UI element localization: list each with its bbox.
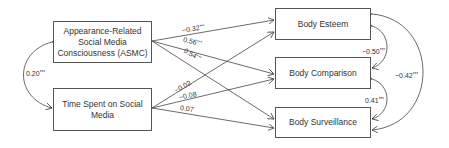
node-asmc: Appearance-Related Social Media Consciou… xyxy=(53,21,152,63)
coef-time-surveillance: 0.07 xyxy=(180,104,195,114)
node-label: Time Spent on Social Media xyxy=(54,99,151,121)
node-body-comparison: Body Comparison xyxy=(275,57,371,89)
cov-asmc-time: 0.20*** xyxy=(26,70,45,78)
node-body-surveillance: Body Surveillance xyxy=(275,107,371,138)
cov-comparison-surveillance: 0.41*** xyxy=(365,97,384,105)
node-label: Appearance-Related Social Media Consciou… xyxy=(54,26,151,59)
node-label: Body Esteem xyxy=(298,19,349,30)
cov-esteem-surveillance: −0.42*** xyxy=(395,72,418,80)
covariance-esteem-comparison xyxy=(372,26,387,68)
node-time-spent: Time Spent on Social Media xyxy=(53,88,152,131)
node-label: Body Comparison xyxy=(289,68,357,79)
path-time-comparison xyxy=(152,79,274,108)
path-diagram: Appearance-Related Social Media Consciou… xyxy=(0,0,449,148)
path-time-surveillance xyxy=(152,108,274,128)
path-asmc-surveillance xyxy=(152,41,274,119)
node-body-esteem: Body Esteem xyxy=(275,8,371,40)
path-time-esteem xyxy=(152,32,274,108)
path-asmc-comparison xyxy=(152,41,274,74)
cov-esteem-comparison: −0.50*** xyxy=(362,48,385,56)
path-asmc-esteem xyxy=(152,20,274,41)
node-label: Body Surveillance xyxy=(289,117,357,128)
